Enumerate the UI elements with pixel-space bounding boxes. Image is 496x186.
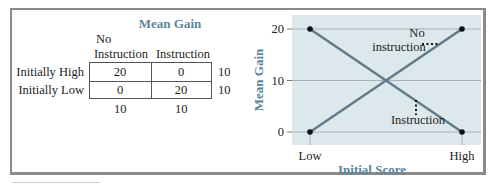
y-tick-label: 20 bbox=[272, 22, 285, 36]
x-tick-label-high: High bbox=[450, 149, 476, 163]
annotation-no-instruction: instruction bbox=[372, 40, 426, 54]
y-tick-marks bbox=[287, 29, 292, 132]
y-axis-title: Mean Gain bbox=[251, 48, 266, 111]
y-tick-label: 10 bbox=[272, 74, 285, 88]
annotation-no-label-line1: No bbox=[409, 26, 424, 40]
annotation-instruction: Instruction bbox=[391, 113, 446, 127]
y-tick-label: 0 bbox=[278, 125, 284, 139]
x-tick-label-low: Low bbox=[299, 149, 322, 163]
interaction-chart: 20 10 0 Low High Initial Score Mean Gain… bbox=[0, 0, 496, 186]
caption-rule bbox=[12, 182, 100, 183]
x-axis-title: Initial Score bbox=[338, 162, 406, 177]
